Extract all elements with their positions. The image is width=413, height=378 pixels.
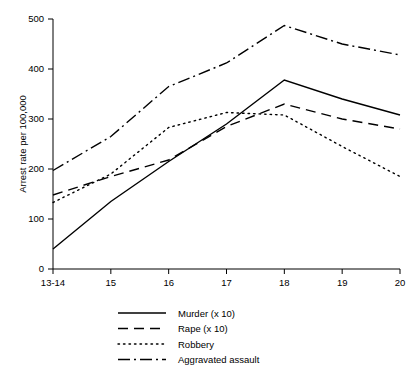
chart-legend: Murder (x 10)Rape (x 10)RobberyAggravate… — [118, 308, 260, 366]
x-tick-label: 16 — [163, 277, 174, 288]
x-tick-label: 13-14 — [41, 277, 65, 288]
y-axis-title: Arrest rate per 100,000 — [17, 95, 28, 193]
x-axis: 13-14151617181920 — [41, 269, 405, 288]
y-axis-tick-labels: 0100200300400500 — [28, 13, 44, 274]
series-line-dashed — [53, 104, 400, 195]
data-series-group — [53, 26, 400, 250]
legend-label: Rape (x 10) — [178, 323, 228, 334]
y-tick-label: 500 — [28, 13, 44, 24]
x-axis-ticks — [53, 269, 400, 274]
y-tick-label: 100 — [28, 213, 44, 224]
series-line-dotted — [53, 113, 400, 203]
y-tick-label: 0 — [39, 263, 44, 274]
y-tick-label: 400 — [28, 63, 44, 74]
chart-figure: 0100200300400500 Arrest rate per 100,000… — [0, 0, 413, 378]
y-axis: 0100200300400500 Arrest rate per 100,000 — [17, 13, 53, 274]
legend-label: Aggravated assault — [178, 354, 260, 365]
series-line-solid — [53, 80, 400, 249]
legend-label: Murder (x 10) — [178, 308, 235, 319]
series-line-dash-dot — [53, 26, 400, 171]
x-tick-label: 18 — [279, 277, 290, 288]
y-tick-label: 300 — [28, 113, 44, 124]
x-tick-label: 20 — [395, 277, 406, 288]
x-tick-label: 19 — [337, 277, 348, 288]
legend-label: Robbery — [178, 339, 214, 350]
x-axis-tick-labels: 13-14151617181920 — [41, 277, 405, 288]
x-tick-label: 15 — [106, 277, 117, 288]
y-tick-label: 200 — [28, 163, 44, 174]
x-tick-label: 17 — [221, 277, 232, 288]
y-axis-ticks — [48, 19, 53, 269]
line-chart: 0100200300400500 Arrest rate per 100,000… — [0, 0, 413, 378]
